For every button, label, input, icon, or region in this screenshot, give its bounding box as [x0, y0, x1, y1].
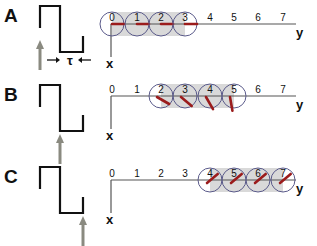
spin-chain-diagram: Aτyx01234567Byx01234567Cyx01234567 — [0, 0, 317, 246]
panel-label: C — [4, 166, 18, 187]
tick-label: 6 — [255, 12, 261, 23]
tick-label: 7 — [280, 12, 286, 23]
tick-label: 2 — [158, 12, 164, 23]
tick-label: 4 — [207, 84, 213, 95]
tick-label: 6 — [255, 84, 261, 95]
tick-label: 5 — [231, 168, 237, 179]
x-axis-label: x — [106, 56, 114, 71]
panel-label: A — [4, 5, 18, 26]
y-axis-label: y — [296, 25, 304, 40]
panel-label: B — [4, 84, 18, 105]
panel-c: Cyx01234567 — [4, 166, 304, 246]
tick-label: 3 — [182, 12, 188, 23]
tick-label: 6 — [255, 168, 261, 179]
tick-label: 0 — [109, 168, 115, 179]
panel-b: Byx01234567 — [4, 84, 304, 164]
pulse-waveform — [40, 167, 83, 213]
tick-label: 0 — [109, 84, 115, 95]
y-axis-label: y — [296, 181, 304, 196]
tick-label: 3 — [182, 168, 188, 179]
tick-label: 4 — [207, 168, 213, 179]
x-axis-label: x — [106, 128, 114, 143]
tick-label: 2 — [158, 168, 164, 179]
tick-label: 1 — [134, 168, 140, 179]
tick-label: 3 — [182, 84, 188, 95]
tau-label: τ — [67, 53, 73, 68]
pulse-waveform — [40, 6, 83, 52]
tick-label: 5 — [231, 84, 237, 95]
tick-label: 1 — [134, 84, 140, 95]
tick-label: 5 — [231, 12, 237, 23]
tick-label: 7 — [280, 168, 286, 179]
tick-label: 2 — [158, 84, 164, 95]
tick-label: 1 — [134, 12, 140, 23]
pulse-waveform — [40, 85, 83, 131]
panel-a: Aτyx01234567 — [4, 5, 304, 71]
x-axis-label: x — [106, 212, 114, 227]
tick-label: 7 — [280, 84, 286, 95]
y-axis-label: y — [296, 97, 304, 112]
tick-label: 4 — [207, 12, 213, 23]
tick-label: 0 — [109, 12, 115, 23]
